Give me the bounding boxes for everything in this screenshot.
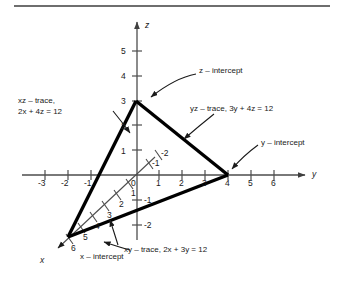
z-axis-label: z <box>145 20 149 31</box>
x-tick-3: 3 <box>107 210 112 221</box>
z-tick-neg-1: -1 <box>144 195 152 206</box>
x-tick-6: 6 <box>71 243 76 254</box>
y-tick-1: 1 <box>156 178 161 189</box>
y-tick-3: 3 <box>202 178 207 189</box>
z-intercept-arrow <box>151 74 196 97</box>
figure-container: z y x 1 2 3 4 5 -1 -2 0 1 2 3 4 5 6 -3 -… <box>0 0 339 281</box>
callout-arrows <box>104 74 258 250</box>
xz-trace-label-line2: 2x + 4z = 12 <box>18 107 62 118</box>
z-tick-4: 4 <box>121 71 126 82</box>
y-tick-2: 2 <box>179 178 184 189</box>
z-intercept-label: z – intercept <box>199 66 243 76</box>
y-intercept-label: y – intercept <box>261 138 305 148</box>
x-axis-label: x <box>40 255 44 266</box>
y-tick-4: 4 <box>225 178 230 189</box>
z-tick-2: 2 <box>121 121 126 132</box>
y-tick-neg-2: -2 <box>61 178 69 189</box>
x-intercept-label: x – intercept <box>80 252 124 262</box>
xz-trace-label: xz – trace, 2x + 4z = 12 <box>18 96 62 118</box>
xz-trace-label-line1: xz – trace, <box>18 96 62 107</box>
z-tick-neg-2: -2 <box>144 220 152 231</box>
x-tick-neg-2: -2 <box>161 148 169 159</box>
xy-trace-arrow <box>110 220 118 245</box>
x-tick-4: 4 <box>95 221 100 232</box>
z-tick-5: 5 <box>121 46 126 57</box>
x-tick-2: 2 <box>119 199 124 210</box>
x-tick-neg-1: -1 <box>152 158 160 169</box>
y-intercept-arrow <box>232 145 258 169</box>
y-tick-6: 6 <box>271 178 276 189</box>
y-tick-neg-3: -3 <box>38 178 46 189</box>
z-tick-3: 3 <box>121 96 126 107</box>
xy-trace-label: xy – trace, 2x + 3y = 12 <box>124 245 207 255</box>
x-tick-1: 1 <box>131 188 136 199</box>
yz-trace-label: yz – trace, 3y + 4z = 12 <box>190 104 273 114</box>
yz-trace-arrow <box>184 114 214 139</box>
z-tick-1: 1 <box>121 146 126 157</box>
y-tick-5: 5 <box>248 178 253 189</box>
y-axis-label: y <box>312 169 316 180</box>
x-tick-5: 5 <box>83 232 88 243</box>
y-tick-neg-1: -1 <box>84 178 92 189</box>
